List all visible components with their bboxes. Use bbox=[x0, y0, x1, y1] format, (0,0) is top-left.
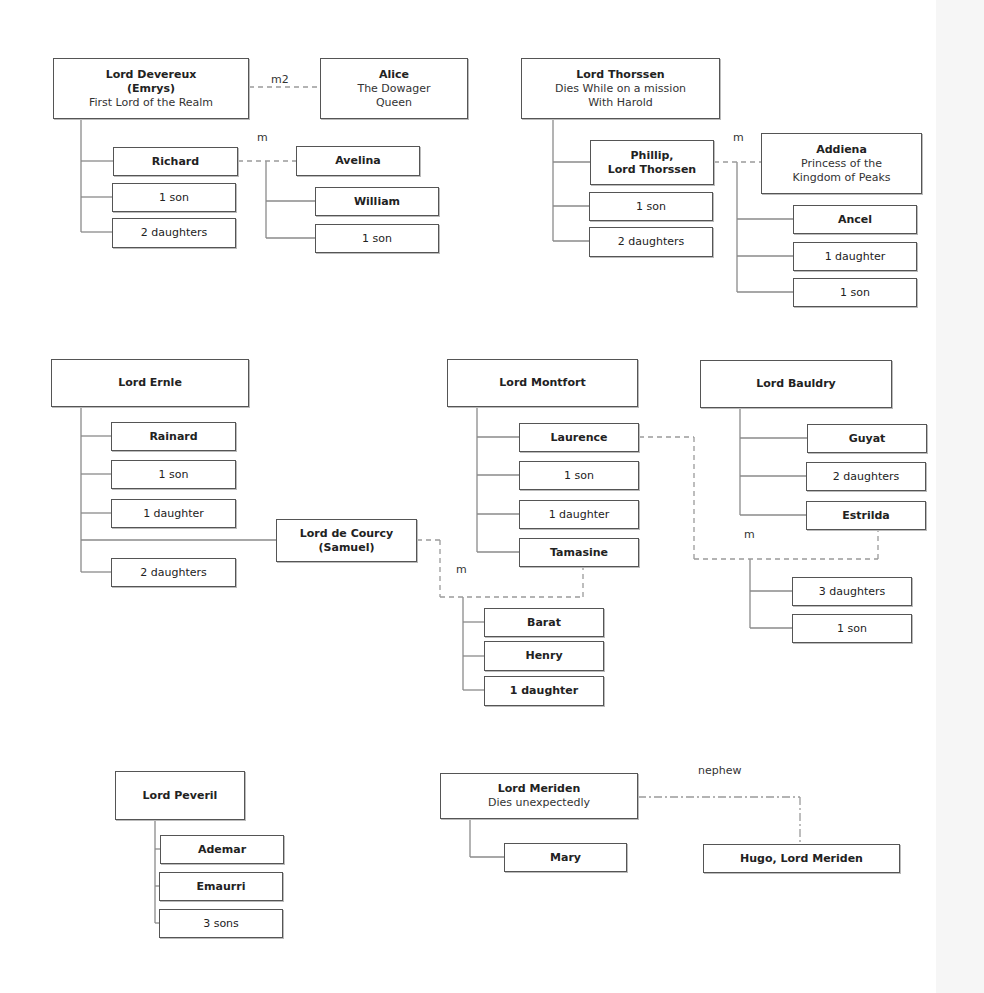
person-name: 1 son bbox=[362, 232, 392, 246]
person-box-barat: Barat bbox=[484, 608, 604, 637]
person-name: 1 son bbox=[840, 286, 870, 300]
person-box-bauldry: Lord Bauldry bbox=[700, 360, 892, 408]
person-box-montfort: Lord Montfort bbox=[447, 359, 638, 407]
person-name: Lord Bauldry bbox=[756, 377, 836, 391]
person-box-mary: Mary bbox=[504, 843, 627, 872]
person-box-alice: AliceThe DowagerQueen bbox=[320, 58, 468, 119]
person-box-ademar: Ademar bbox=[160, 835, 284, 864]
person-box-montfort-1daughter: 1 daughter bbox=[519, 500, 639, 529]
person-name: 1 son bbox=[159, 468, 189, 482]
person-box-ernle: Lord Ernle bbox=[51, 359, 249, 407]
person-box-william: William bbox=[315, 187, 439, 216]
person-name: Alice bbox=[379, 68, 409, 82]
person-box-ancel: Ancel bbox=[793, 205, 917, 234]
person-name: Henry bbox=[525, 649, 562, 663]
person-name: Ancel bbox=[838, 213, 872, 227]
person-name: 2 daughters bbox=[141, 226, 207, 240]
person-name: Avelina bbox=[335, 154, 381, 168]
relationship-label-m-richard-avelina: m bbox=[257, 131, 268, 144]
person-box-montfort-1son: 1 son bbox=[519, 461, 639, 490]
person-name: 3 daughters bbox=[819, 585, 885, 599]
person-box-estrilda-3daughters: 3 daughters bbox=[792, 577, 912, 606]
person-name-line: (Samuel) bbox=[319, 541, 375, 555]
person-name: Ademar bbox=[198, 843, 246, 857]
person-name: Addiena bbox=[816, 143, 867, 157]
person-box-addiena: AddienaPrincess of theKingdom of Peaks bbox=[761, 133, 922, 194]
person-name: 1 son bbox=[159, 191, 189, 205]
person-box-tamasine: Tamasine bbox=[519, 538, 639, 567]
person-description: Dies unexpectedly bbox=[488, 796, 590, 810]
person-description: Dies While on a mission bbox=[555, 82, 686, 96]
person-name: Guyat bbox=[849, 432, 886, 446]
person-name: Emaurri bbox=[197, 880, 246, 894]
person-box-addiena-1son: 1 son bbox=[793, 278, 917, 307]
person-name: Hugo, Lord Meriden bbox=[740, 852, 863, 866]
person-box-hugo: Hugo, Lord Meriden bbox=[703, 844, 900, 873]
person-box-peveril-3sons: 3 sons bbox=[159, 909, 283, 938]
person-box-thorssen-1son: 1 son bbox=[589, 192, 713, 221]
person-name: Mary bbox=[550, 851, 581, 865]
person-name: Barat bbox=[527, 616, 561, 630]
person-name: 1 daughter bbox=[143, 507, 204, 521]
person-description: First Lord of the Realm bbox=[89, 96, 213, 110]
person-box-ernle-2daughters: 2 daughters bbox=[111, 558, 236, 587]
relationship-label-m-phillip-addiena: m bbox=[733, 131, 744, 144]
person-box-ernle-1son: 1 son bbox=[111, 460, 236, 489]
person-name: Rainard bbox=[149, 430, 197, 444]
person-box-bauldry-2daughters: 2 daughters bbox=[806, 462, 926, 491]
person-box-addiena-1daughter: 1 daughter bbox=[793, 242, 917, 271]
person-description: Queen bbox=[376, 96, 412, 110]
relationship-label-m-decourcy-tamasine: m bbox=[456, 563, 467, 576]
person-box-thorssen-2daughters: 2 daughters bbox=[589, 227, 713, 257]
person-box-devereux-1son: 1 son bbox=[112, 183, 236, 212]
person-name: Lord Peveril bbox=[143, 789, 218, 803]
person-name: Richard bbox=[152, 155, 199, 169]
person-box-thorssen: Lord ThorssenDies While on a missionWith… bbox=[521, 58, 720, 119]
person-box-henry: Henry bbox=[484, 641, 604, 671]
family-tree-diagram: Lord Devereux(Emrys)First Lord of the Re… bbox=[0, 0, 984, 993]
person-box-phillip: Phillip,Lord Thorssen bbox=[590, 140, 714, 185]
person-box-estrilda: Estrilda bbox=[806, 501, 926, 530]
person-box-richard: Richard bbox=[113, 147, 238, 176]
person-box-guyat: Guyat bbox=[807, 424, 927, 453]
person-box-decourcy: Lord de Courcy(Samuel) bbox=[276, 519, 417, 562]
person-box-avelina-1son: 1 son bbox=[315, 224, 439, 253]
person-box-emaurri: Emaurri bbox=[159, 872, 283, 901]
person-box-devereux: Lord Devereux(Emrys)First Lord of the Re… bbox=[53, 58, 249, 119]
person-name: 1 daughter bbox=[825, 250, 886, 264]
relationship-label-nephew-meriden-hugo: nephew bbox=[698, 764, 741, 777]
person-name: 2 daughters bbox=[833, 470, 899, 484]
person-name: Lord Thorssen bbox=[576, 68, 664, 82]
person-name: Lord Meriden bbox=[498, 782, 580, 796]
person-name: 1 son bbox=[837, 622, 867, 636]
person-name-line: (Emrys) bbox=[127, 82, 175, 96]
person-description: Princess of the bbox=[801, 157, 882, 171]
person-name: Lord de Courcy bbox=[300, 527, 393, 541]
person-description: The Dowager bbox=[357, 82, 430, 96]
person-box-peveril: Lord Peveril bbox=[115, 771, 245, 820]
person-box-avelina: Avelina bbox=[296, 146, 420, 176]
person-name: Laurence bbox=[551, 431, 608, 445]
person-name-line: Lord Thorssen bbox=[608, 163, 696, 177]
relationship-label-m-laurence-estrilda: m bbox=[744, 528, 755, 541]
person-box-ernle-1daughter: 1 daughter bbox=[111, 499, 236, 528]
person-name: William bbox=[354, 195, 400, 209]
person-name: Phillip, bbox=[630, 149, 673, 163]
person-name: 3 sons bbox=[203, 917, 239, 931]
person-name: Tamasine bbox=[550, 546, 608, 560]
person-name: 2 daughters bbox=[140, 566, 206, 580]
person-name: 2 daughters bbox=[618, 235, 684, 249]
person-name: 1 daughter bbox=[510, 684, 578, 698]
person-name: 1 son bbox=[564, 469, 594, 483]
person-name: Lord Montfort bbox=[499, 376, 585, 390]
person-name: Estrilda bbox=[842, 509, 890, 523]
person-description: With Harold bbox=[588, 96, 653, 110]
person-box-tamasine-1daughter: 1 daughter bbox=[484, 676, 604, 706]
person-name: 1 son bbox=[636, 200, 666, 214]
relationship-label-m2-devereux-alice: m2 bbox=[271, 73, 289, 86]
person-name: Lord Ernle bbox=[118, 376, 182, 390]
person-name: Lord Devereux bbox=[106, 68, 197, 82]
person-name: 1 daughter bbox=[549, 508, 610, 522]
person-box-devereux-2daughters: 2 daughters bbox=[112, 218, 236, 248]
person-box-laurence: Laurence bbox=[519, 423, 639, 452]
